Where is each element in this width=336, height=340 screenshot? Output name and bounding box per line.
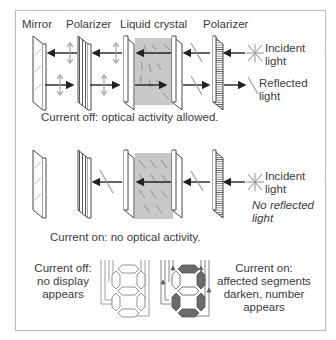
display-off-line1: Current off: <box>28 262 98 275</box>
incident-line1: Incident <box>265 170 305 183</box>
display-off-line2: no display <box>28 275 98 288</box>
display-off-caption: Current off: no display appears <box>28 262 98 301</box>
seven-segment-on-icon <box>161 260 211 317</box>
display-on-line1: Current on: <box>212 262 316 275</box>
display-on-line2: affected segments <box>212 275 316 288</box>
polarizer-left-plate <box>78 150 88 218</box>
seven-segment-off-icon <box>101 260 149 317</box>
mirror-plate <box>33 150 43 218</box>
reflected-line1: Reflected <box>259 77 308 90</box>
reflected-line2: light <box>259 90 308 103</box>
display-off-line3: appears <box>28 288 98 301</box>
display-on-caption: Current on: affected segments darken, nu… <box>212 262 316 314</box>
polarizer-left-plate <box>78 36 88 110</box>
incident-line1: Incident <box>265 42 305 55</box>
no-reflected-light-label: No reflected light <box>252 199 314 225</box>
mirror-plate <box>33 36 43 110</box>
caption-current-on: Current on: no optical activity. <box>50 231 201 243</box>
incident-line2: light <box>265 183 305 196</box>
caption-current-off: Current off: optical activity allowed. <box>41 111 218 123</box>
panel-current-on <box>33 150 264 219</box>
incident-line2: light <box>265 55 305 68</box>
display-on-line4: appears <box>212 301 316 314</box>
reflected-light-label: Reflected light <box>259 77 308 103</box>
display-on-line3: darken, number <box>212 288 316 301</box>
incident-light-label-1: Incident light <box>265 42 305 68</box>
no-reflected-line1: No reflected <box>252 199 314 212</box>
panel-current-off <box>33 36 264 110</box>
incident-light-label-2: Incident light <box>265 170 305 196</box>
no-reflected-line2: light <box>252 212 314 225</box>
